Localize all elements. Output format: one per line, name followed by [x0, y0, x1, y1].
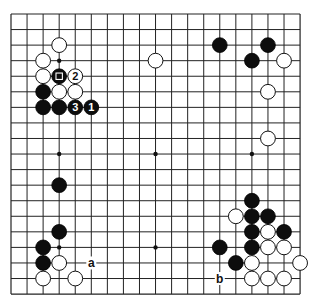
black-stone-disc	[52, 69, 67, 84]
white-stone	[261, 131, 276, 146]
white-stone-disc	[277, 53, 292, 68]
move-number: 1	[88, 101, 94, 113]
black-stone	[261, 209, 276, 224]
black-stone-disc	[212, 38, 227, 53]
black-stone	[52, 69, 67, 84]
white-stone	[52, 256, 67, 271]
white-stone-disc	[261, 84, 276, 99]
black-stone-disc	[52, 178, 67, 193]
star-point	[57, 58, 61, 62]
white-stone-disc	[36, 271, 51, 286]
white-stone: 2	[68, 69, 83, 84]
go-board-diagram: 231 ab	[0, 0, 315, 305]
star-point	[153, 245, 157, 249]
white-stone-disc	[36, 69, 51, 84]
white-stone	[261, 84, 276, 99]
black-stone-disc	[36, 240, 51, 255]
black-stone	[245, 53, 260, 68]
white-stone-disc	[36, 53, 51, 68]
black-stone	[228, 256, 243, 271]
move-number: 3	[72, 101, 78, 113]
white-stone-disc	[52, 256, 67, 271]
black-stone	[36, 84, 51, 99]
white-stone	[261, 224, 276, 239]
black-stone-disc	[245, 240, 260, 255]
white-stone	[36, 271, 51, 286]
black-stone	[277, 224, 292, 239]
star-point	[250, 152, 254, 156]
black-stone-disc	[245, 224, 260, 239]
black-stone	[245, 224, 260, 239]
black-stone-disc	[228, 256, 243, 271]
white-stone	[36, 53, 51, 68]
white-stone	[245, 256, 260, 271]
point-label-a: a	[88, 256, 95, 270]
white-stone-disc	[148, 53, 163, 68]
go-board: 231 ab	[0, 0, 315, 305]
black-stone	[52, 224, 67, 239]
white-stone-disc	[261, 240, 276, 255]
black-stone-disc	[277, 224, 292, 239]
black-stone-disc	[245, 193, 260, 208]
star-point	[57, 152, 61, 156]
white-stone	[261, 240, 276, 255]
white-stone	[68, 84, 83, 99]
black-stone	[245, 209, 260, 224]
black-stone	[212, 38, 227, 53]
white-stone	[68, 271, 83, 286]
star-point	[153, 152, 157, 156]
black-stone-disc	[36, 100, 51, 115]
black-stone-disc	[36, 84, 51, 99]
black-stone	[212, 240, 227, 255]
white-stone	[293, 256, 308, 271]
white-stone	[36, 69, 51, 84]
white-stone	[277, 53, 292, 68]
white-stone	[277, 240, 292, 255]
white-stone	[277, 271, 292, 286]
black-stone	[245, 193, 260, 208]
white-stone-disc	[277, 271, 292, 286]
white-stone-disc	[245, 256, 260, 271]
black-stone-disc	[36, 256, 51, 271]
black-stone-disc	[261, 38, 276, 53]
white-stone	[52, 84, 67, 99]
black-stone-disc	[245, 209, 260, 224]
white-stone	[245, 271, 260, 286]
black-stone-disc	[261, 209, 276, 224]
white-stone	[148, 53, 163, 68]
black-stone-disc	[212, 240, 227, 255]
white-stone-disc	[68, 271, 83, 286]
black-stone	[261, 38, 276, 53]
move-number: 2	[72, 70, 78, 82]
white-stone	[261, 271, 276, 286]
black-stone-disc	[52, 100, 67, 115]
white-stone-disc	[293, 256, 308, 271]
white-stone-disc	[52, 38, 67, 53]
black-stone	[36, 100, 51, 115]
black-stone	[52, 100, 67, 115]
black-stone	[52, 178, 67, 193]
point-label-b: b	[216, 272, 223, 286]
white-stone-disc	[277, 240, 292, 255]
white-stone-disc	[68, 84, 83, 99]
white-stone	[52, 38, 67, 53]
white-stone-disc	[228, 209, 243, 224]
white-stone-disc	[261, 131, 276, 146]
white-stone	[228, 209, 243, 224]
black-stone	[36, 256, 51, 271]
star-point	[57, 245, 61, 249]
black-stone	[36, 240, 51, 255]
black-stone: 3	[68, 100, 83, 115]
black-stone-disc	[245, 53, 260, 68]
black-stone-disc	[52, 224, 67, 239]
white-stone-disc	[261, 224, 276, 239]
white-stone-disc	[261, 271, 276, 286]
black-stone: 1	[84, 100, 99, 115]
white-stone-disc	[245, 271, 260, 286]
white-stone-disc	[52, 84, 67, 99]
black-stone	[245, 240, 260, 255]
